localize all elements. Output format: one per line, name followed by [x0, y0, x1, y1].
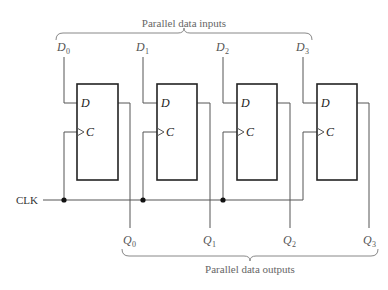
svg-text:Q: Q [203, 233, 212, 247]
outputs-caption: Parallel data outputs [205, 263, 295, 275]
flip-flop-3: D C [317, 84, 357, 180]
svg-text:2: 2 [225, 47, 229, 56]
svg-text:0: 0 [132, 240, 136, 249]
svg-text:D: D [295, 40, 305, 54]
pin-c-label: C [86, 125, 95, 139]
q2-output-wire [277, 103, 290, 228]
input-label-d0: D 0 [56, 40, 70, 56]
output-label-q3: Q 3 [363, 233, 376, 249]
svg-text:0: 0 [66, 47, 70, 56]
input-label-d2: D 2 [215, 40, 229, 56]
clk-branch-ff0 [64, 132, 77, 200]
svg-text:3: 3 [305, 47, 309, 56]
inputs-caption: Parallel data inputs [142, 17, 226, 29]
clk-junction-2 [220, 197, 225, 202]
pin-d-label: D [80, 96, 90, 110]
output-label-q0: Q 0 [123, 233, 136, 249]
svg-text:D: D [135, 40, 145, 54]
svg-text:1: 1 [145, 47, 149, 56]
clk-junction-1 [140, 197, 145, 202]
q0-output-wire [118, 103, 130, 228]
clk-branch-ff1 [143, 132, 157, 200]
parallel-register-diagram: Parallel data inputs D 0 D 1 D 2 D 3 CLK… [0, 0, 388, 290]
pin-d-label: D [320, 96, 330, 110]
d0-input-wire [64, 57, 77, 103]
q3-output-wire [357, 103, 369, 228]
clk-label: CLK [16, 194, 38, 206]
output-label-q2: Q 2 [283, 233, 296, 249]
pin-d-label: D [240, 96, 250, 110]
clk-branch-ff3 [303, 132, 317, 200]
flip-flop-1: D C [157, 84, 197, 180]
flip-flop-2: D C [237, 84, 277, 180]
d3-input-wire [303, 57, 317, 103]
svg-text:D: D [56, 40, 66, 54]
svg-text:D: D [215, 40, 225, 54]
pin-c-label: C [166, 125, 175, 139]
pin-c-label: C [246, 125, 255, 139]
pin-c-label: C [326, 125, 335, 139]
d1-input-wire [143, 57, 157, 103]
svg-text:Q: Q [363, 233, 372, 247]
clk-junction-0 [61, 197, 66, 202]
inputs-brace [56, 28, 312, 40]
flip-flop-0: D C [77, 84, 118, 180]
svg-text:Q: Q [283, 233, 292, 247]
input-label-d3: D 3 [295, 40, 309, 56]
d2-input-wire [223, 57, 237, 103]
svg-text:3: 3 [372, 240, 376, 249]
pin-d-label: D [160, 96, 170, 110]
outputs-brace [122, 249, 378, 261]
svg-text:Q: Q [123, 233, 132, 247]
input-label-d1: D 1 [135, 40, 149, 56]
q1-output-wire [197, 103, 210, 228]
clk-branch-ff2 [223, 132, 237, 200]
output-label-q1: Q 1 [203, 233, 216, 249]
svg-text:1: 1 [212, 240, 216, 249]
svg-text:2: 2 [292, 240, 296, 249]
